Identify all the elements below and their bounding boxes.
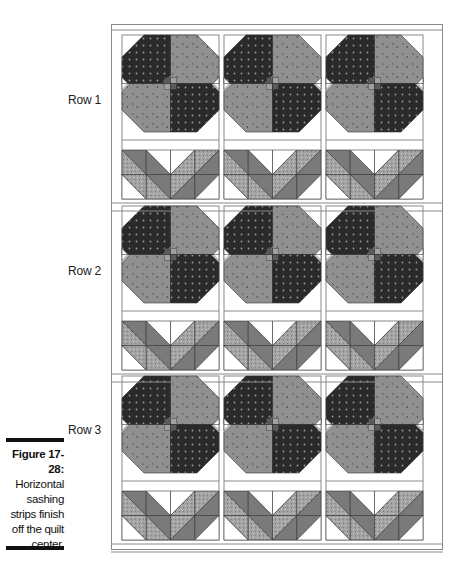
row-1-label: Row 1: [68, 93, 101, 107]
caption-bottom-rule: [6, 546, 64, 550]
quilt-block: [122, 206, 219, 370]
quilt-block: [122, 35, 219, 199]
row-2-label: Row 2: [68, 264, 101, 278]
row-3-label: Row 3: [68, 423, 101, 437]
quilt-block: [326, 376, 423, 540]
caption-top-rule: [6, 438, 64, 442]
quilt-block: [122, 376, 219, 540]
quilt-block: [224, 35, 321, 199]
quilt-block: [224, 206, 321, 370]
figure-caption: Figure 17-28: Horizontal sashing strips …: [0, 447, 64, 552]
figure-number: Figure 17-28:: [12, 448, 64, 475]
quilt-block: [326, 35, 423, 199]
quilt-block: [326, 206, 423, 370]
quilt-block: [224, 376, 321, 540]
figure-caption-text: Horizontal sashing strips finish off the…: [10, 478, 64, 550]
quilt-diagram: [0, 0, 465, 574]
